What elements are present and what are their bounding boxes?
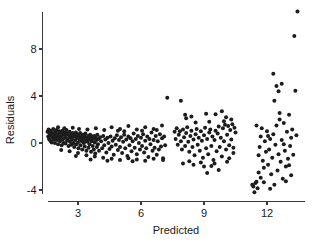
data-point bbox=[203, 126, 207, 130]
data-point bbox=[105, 159, 109, 163]
data-point bbox=[232, 126, 236, 130]
data-point bbox=[255, 123, 259, 127]
data-point bbox=[110, 157, 114, 161]
data-point bbox=[102, 143, 106, 147]
data-point bbox=[175, 126, 179, 130]
data-point bbox=[231, 146, 235, 150]
data-point bbox=[224, 115, 228, 119]
data-point bbox=[280, 138, 284, 142]
data-point bbox=[118, 145, 122, 149]
data-point bbox=[229, 118, 233, 122]
data-point bbox=[256, 186, 260, 190]
data-point bbox=[201, 156, 205, 160]
data-point bbox=[228, 128, 232, 132]
data-point bbox=[93, 155, 97, 159]
data-point bbox=[194, 120, 198, 124]
data-point bbox=[220, 109, 224, 113]
data-point bbox=[220, 155, 224, 159]
data-point bbox=[292, 34, 296, 38]
data-point bbox=[271, 132, 275, 136]
data-point bbox=[161, 158, 165, 162]
data-point bbox=[210, 135, 214, 139]
data-point bbox=[257, 170, 261, 174]
data-point bbox=[266, 134, 270, 138]
data-point bbox=[94, 126, 98, 130]
data-point bbox=[154, 134, 158, 138]
data-point bbox=[179, 139, 183, 143]
data-point bbox=[226, 124, 230, 128]
data-point bbox=[183, 113, 187, 117]
data-point bbox=[289, 136, 293, 140]
data-point bbox=[115, 133, 119, 137]
data-point bbox=[196, 143, 200, 147]
data-point bbox=[120, 151, 124, 155]
data-point bbox=[202, 133, 206, 137]
data-point bbox=[152, 138, 156, 142]
data-point bbox=[193, 153, 197, 157]
data-point bbox=[293, 89, 297, 93]
data-point bbox=[231, 151, 235, 155]
data-point bbox=[127, 143, 131, 147]
data-point bbox=[84, 153, 88, 157]
data-point bbox=[155, 153, 159, 157]
data-point bbox=[74, 154, 78, 158]
data-point bbox=[132, 132, 136, 136]
plot-points-layer bbox=[46, 9, 300, 194]
data-point bbox=[222, 139, 226, 143]
data-point bbox=[258, 145, 262, 149]
data-point bbox=[101, 134, 105, 138]
chart-canvas: -4048 36912 Predicted Residuals bbox=[0, 0, 320, 246]
data-point bbox=[199, 129, 203, 133]
data-point bbox=[294, 133, 298, 137]
data-point bbox=[260, 126, 264, 130]
data-point bbox=[227, 156, 231, 160]
data-point bbox=[68, 149, 72, 153]
data-point bbox=[265, 129, 269, 133]
data-point bbox=[282, 142, 286, 146]
x-axis-tick-label: 12 bbox=[261, 207, 273, 219]
data-point bbox=[211, 158, 215, 162]
data-point bbox=[205, 137, 209, 141]
data-point bbox=[144, 146, 148, 150]
data-point bbox=[139, 136, 143, 140]
data-point bbox=[176, 143, 180, 147]
data-point bbox=[109, 135, 113, 139]
data-point bbox=[261, 159, 265, 163]
data-point bbox=[126, 156, 130, 160]
y-axis-tick-label: 0 bbox=[30, 137, 36, 149]
data-point bbox=[156, 139, 160, 143]
data-point bbox=[158, 132, 162, 136]
data-point bbox=[147, 137, 151, 141]
data-point bbox=[285, 130, 289, 134]
data-point bbox=[255, 180, 259, 184]
data-point bbox=[287, 163, 291, 167]
data-point bbox=[165, 96, 169, 100]
data-point bbox=[137, 141, 141, 145]
data-point bbox=[207, 120, 211, 124]
y-axis-tick-label: 4 bbox=[30, 90, 36, 102]
data-point bbox=[131, 159, 135, 163]
data-point bbox=[282, 121, 286, 125]
data-point bbox=[180, 147, 184, 151]
data-point bbox=[99, 139, 103, 143]
data-point bbox=[152, 157, 156, 161]
x-axis-tick-label: 3 bbox=[75, 207, 81, 219]
data-point bbox=[224, 147, 228, 151]
data-point bbox=[140, 129, 144, 133]
data-point bbox=[214, 112, 218, 116]
data-point bbox=[143, 125, 147, 129]
data-point bbox=[230, 122, 234, 126]
data-point bbox=[110, 145, 114, 149]
data-point bbox=[263, 139, 267, 143]
data-point bbox=[192, 137, 196, 141]
data-point bbox=[140, 144, 144, 148]
data-point bbox=[181, 162, 185, 166]
data-point bbox=[135, 157, 139, 161]
data-point bbox=[257, 153, 261, 157]
data-point bbox=[173, 130, 177, 134]
data-point bbox=[116, 129, 120, 133]
data-point bbox=[188, 134, 192, 138]
data-point bbox=[135, 127, 139, 131]
x-axis-tick-label: 6 bbox=[138, 207, 144, 219]
data-point bbox=[252, 190, 256, 194]
